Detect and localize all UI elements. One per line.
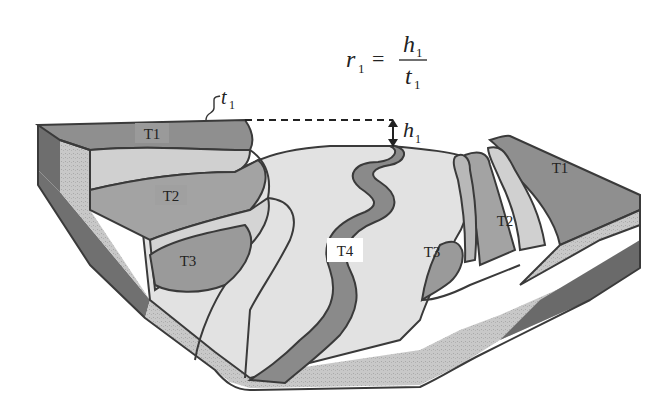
t1-brace <box>206 96 220 120</box>
label-t1-right: T1 <box>552 160 569 176</box>
h1-label: h <box>403 117 414 142</box>
t1-sub: 1 <box>229 98 235 112</box>
label-t4: T4 <box>337 243 354 259</box>
eq-den-var: t <box>405 63 413 89</box>
height-arrow-icon <box>388 119 398 147</box>
label-t3-right: T3 <box>424 244 441 260</box>
label-t2-left: T2 <box>163 188 180 204</box>
eq-lhs-var: r <box>346 46 356 72</box>
label-t1-left: T1 <box>144 126 161 142</box>
eq-lhs-sub: 1 <box>358 61 365 76</box>
ratio-equation: r 1 = h 1 t 1 <box>346 31 427 92</box>
h1-sub: 1 <box>415 132 421 146</box>
eq-num-sub: 1 <box>416 45 423 60</box>
eq-num-var: h <box>403 31 415 57</box>
eq-den-sub: 1 <box>414 77 421 92</box>
label-t2-right: T2 <box>497 213 514 229</box>
t1-label: t <box>221 86 227 108</box>
eq-equals: = <box>372 46 384 71</box>
label-t3-left: T3 <box>180 253 197 269</box>
river-terrace-diagram: T1 T2 T3 T4 T3 T2 T1 r 1 = h 1 t 1 t 1 h… <box>0 0 658 411</box>
